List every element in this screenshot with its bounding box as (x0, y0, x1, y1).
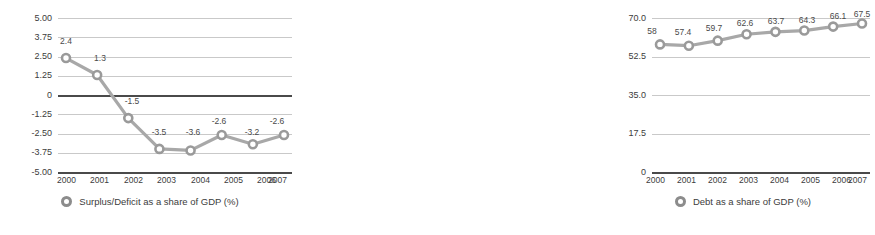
y-axis-label: -3.75 (20, 148, 52, 157)
x-axis-label: 2003 (151, 176, 182, 185)
data-label: 58 (637, 27, 667, 36)
legend-marker-icon (675, 196, 686, 207)
data-point-marker (743, 30, 751, 38)
data-label: 2.4 (51, 37, 81, 46)
x-axis-label: 2000 (640, 176, 671, 185)
legend-marker-icon (61, 196, 72, 207)
y-axis-label: 17.5 (614, 129, 646, 138)
legend-surplus-deficit: Surplus/Deficit as a share of GDP (%) (0, 196, 300, 207)
x-axis-label: 2004 (764, 176, 795, 185)
chart-panel-surplus-deficit: 5.00 3.75 2.50 1.25 0 -1.25 -2.50 -3.75 … (0, 0, 300, 235)
x-axis-label: 2002 (702, 176, 733, 185)
x-axis-label: 2001 (671, 176, 702, 185)
series-line-surplus-deficit (58, 18, 292, 172)
y-axis-label: -1.25 (20, 110, 52, 119)
data-label: -3.2 (237, 128, 267, 137)
data-label: -3.6 (178, 128, 208, 137)
y-axis-label: 70.0 (614, 14, 646, 23)
legend-debt: Debt as a share of GDP (%) (594, 196, 875, 207)
data-label: -1.5 (117, 97, 147, 106)
data-point-marker (771, 28, 779, 36)
legend-label: Debt as a share of GDP (%) (693, 196, 811, 207)
data-point-marker (714, 37, 722, 45)
data-point-marker (155, 145, 163, 153)
data-point-marker (218, 131, 226, 139)
data-point-marker (187, 146, 195, 154)
y-axis-label: -5.00 (20, 168, 52, 177)
plot-area-surplus-deficit (58, 18, 292, 172)
axis-baseline (58, 172, 292, 174)
y-axis-label: 2.50 (20, 52, 52, 61)
y-axis-label: 1.25 (20, 71, 52, 80)
data-label: -3.5 (144, 128, 174, 137)
x-axis-label: 2007 (262, 176, 293, 185)
data-point-marker (800, 27, 808, 35)
data-point-marker (829, 23, 837, 31)
series-line-debt (652, 18, 870, 172)
data-label: -2.6 (204, 117, 234, 126)
x-axis-label: 2005 (218, 176, 249, 185)
y-axis-label: 0 (20, 91, 52, 100)
x-axis-label: 2000 (51, 176, 82, 185)
y-axis-label: -2.50 (20, 129, 52, 138)
data-point-marker (62, 54, 70, 62)
axis-baseline (652, 172, 870, 174)
y-axis-label: 52.5 (614, 52, 646, 61)
legend-label: Surplus/Deficit as a share of GDP (%) (79, 196, 238, 207)
y-axis-label: 3.75 (20, 33, 52, 42)
x-axis-label: 2003 (733, 176, 764, 185)
x-axis-label: 2002 (118, 176, 149, 185)
data-point-marker (656, 40, 664, 48)
x-axis-label: 2004 (185, 176, 216, 185)
y-axis-label: 35.0 (614, 91, 646, 100)
data-point-marker (93, 71, 101, 79)
chart-panel-debt: 70.0 52.5 35.0 17.5 0 2000 2001 2002 200… (297, 0, 595, 235)
data-label: 57.4 (668, 28, 698, 37)
x-axis-label: 2005 (795, 176, 826, 185)
data-label: -2.6 (262, 117, 292, 126)
data-label: 59.7 (699, 24, 729, 33)
data-point-marker (124, 114, 132, 122)
data-label: 63.7 (761, 17, 791, 26)
data-label: 64.3 (792, 16, 822, 25)
data-label: 1.3 (85, 54, 115, 63)
data-point-marker (858, 20, 866, 28)
x-axis-label: 2001 (84, 176, 115, 185)
data-point-marker (685, 42, 693, 50)
data-label: 67.5 (847, 10, 875, 19)
data-point-marker (280, 131, 288, 139)
plot-area-debt (652, 18, 870, 172)
x-axis-label: 2007 (842, 176, 873, 185)
data-label: 62.6 (730, 19, 760, 28)
data-point-marker (249, 140, 257, 148)
y-axis-label: 5.00 (20, 14, 52, 23)
